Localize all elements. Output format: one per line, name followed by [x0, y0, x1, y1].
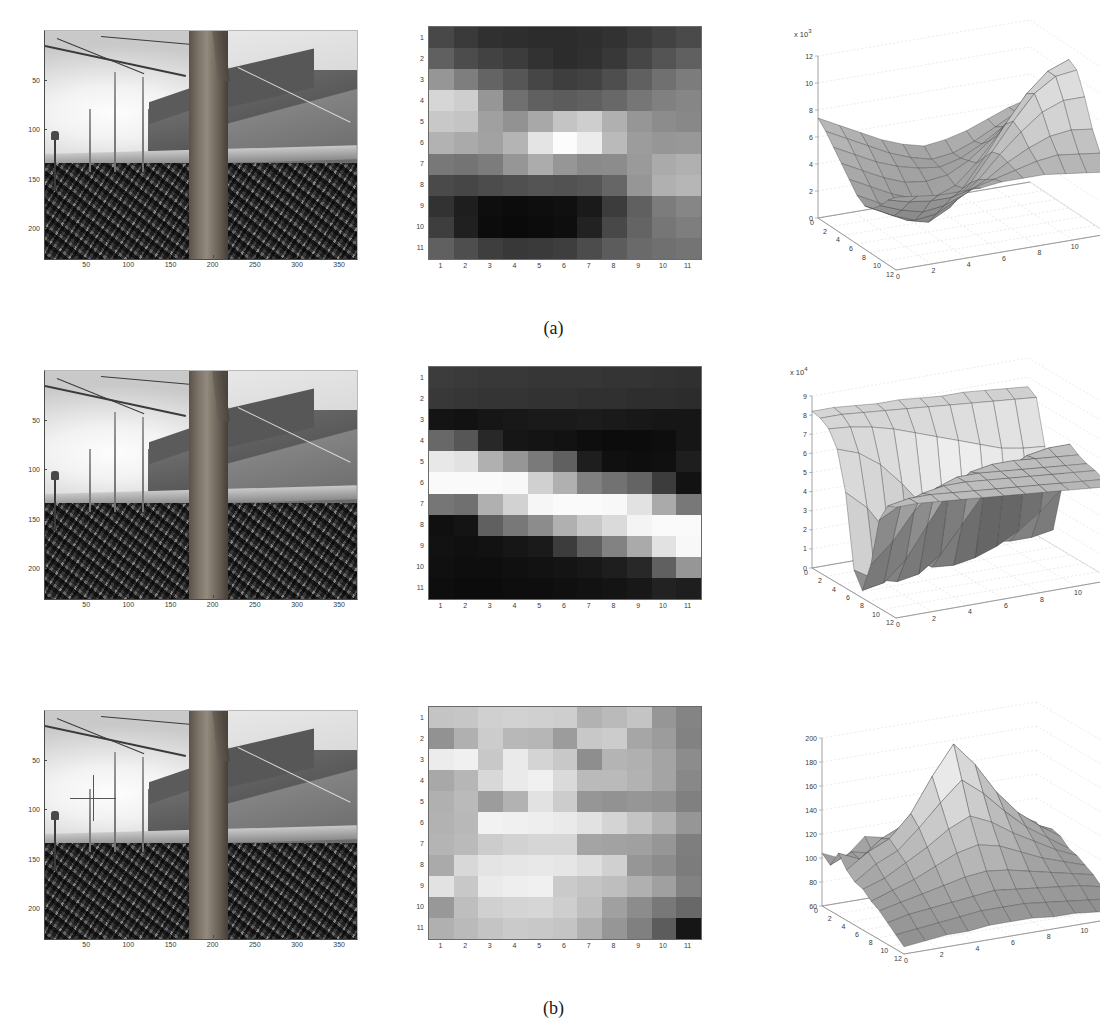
heatmap-x-tick: 10	[659, 942, 667, 949]
heatmap-cell	[454, 494, 479, 515]
heatmap-cell	[478, 430, 503, 451]
heatmap-axes-b	[428, 366, 702, 600]
photo-x-tickmark	[213, 255, 214, 258]
heatmap-cell	[503, 897, 528, 918]
heatmap-cell	[478, 367, 503, 388]
heatmap-cell	[528, 876, 553, 897]
heatmap-cell	[429, 876, 454, 897]
photo-x-tick: 50	[82, 261, 90, 268]
heatmap-cell	[478, 876, 503, 897]
photo-x-tick: 150	[165, 941, 177, 948]
surface-z-tick: 200	[805, 735, 817, 742]
heatmap-cell	[454, 515, 479, 536]
heatmap-x-tick: 3	[488, 262, 492, 269]
heatmap-cell	[553, 472, 578, 493]
heatmap-cell	[553, 791, 578, 812]
photo-y-tickmark	[44, 80, 47, 81]
heatmap-cell	[602, 48, 627, 69]
heatmap-cell	[454, 897, 479, 918]
surface-y-tick: 6	[849, 245, 853, 252]
heatmap-y-tick: 7	[404, 160, 424, 167]
surface-z-tick: 80	[809, 879, 817, 886]
surface-y-tick: 6	[846, 594, 850, 601]
surface-z-tick: 2	[809, 188, 813, 195]
heatmap-cell	[676, 472, 701, 493]
exponent-value: 3	[808, 28, 811, 34]
photo-y-tickmark	[44, 519, 47, 520]
figure-row-c: 50100150200250300350 50100150200 1234567…	[0, 698, 1107, 998]
heatmap-cell	[602, 728, 627, 749]
heatmap-cell	[676, 876, 701, 897]
heatmap-grid-a	[429, 27, 701, 259]
photo-x-tick: 50	[82, 941, 90, 948]
heatmap-cell	[577, 876, 602, 897]
caption-b: (b)	[0, 998, 1107, 1019]
heatmap-cell	[528, 494, 553, 515]
surface-z-tick: 12	[805, 53, 813, 60]
heatmap-cell	[528, 175, 553, 196]
heatmap-cell	[528, 515, 553, 536]
photo-y-tickmark	[44, 760, 47, 761]
heatmap-cell	[676, 388, 701, 409]
thin-tree-3	[89, 789, 91, 853]
heatmap-cell	[454, 472, 479, 493]
heatmap-x-tick: 11	[684, 602, 691, 609]
heatmap-cell	[553, 111, 578, 132]
heatmap-cell	[528, 69, 553, 90]
heatmap-cell	[627, 132, 652, 153]
heatmap-cell	[503, 27, 528, 48]
heatmap-cell	[602, 707, 627, 728]
heatmap-cell	[602, 132, 627, 153]
heatmap-cell	[528, 918, 553, 939]
photo-x-tickmark	[170, 255, 171, 258]
heatmap-cell	[627, 196, 652, 217]
heatmap-cell	[454, 918, 479, 939]
heatmap-cell	[577, 451, 602, 472]
heatmap-cell	[429, 770, 454, 791]
heatmap-cell	[627, 111, 652, 132]
heatmap-cell	[553, 855, 578, 876]
heatmap-cell	[676, 430, 701, 451]
heatmap-cell	[577, 812, 602, 833]
surface-y-tick: 2	[823, 228, 827, 235]
heatmap-cell	[553, 27, 578, 48]
heatmap-cell	[627, 69, 652, 90]
heatmap-cell	[577, 175, 602, 196]
photo-x-tickmark	[297, 595, 298, 598]
heatmap-cell	[627, 175, 652, 196]
surface-y-tick: 8	[869, 939, 873, 946]
heatmap-cell	[577, 154, 602, 175]
photo-y-tick: 100	[22, 806, 40, 813]
heatmap-cell	[528, 409, 553, 430]
heatmap-cell	[627, 707, 652, 728]
heatmap-cell	[577, 494, 602, 515]
photo-x-tickmark	[213, 595, 214, 598]
photo-image-c	[45, 711, 357, 939]
heatmap-cell	[577, 557, 602, 578]
photo-axes-c	[44, 710, 358, 940]
heatmap-x-tick: 4	[513, 262, 517, 269]
heatmap-cell	[627, 557, 652, 578]
heatmap-cell	[652, 430, 677, 451]
heatmap-cell	[503, 90, 528, 111]
photo-x-tick: 50	[82, 601, 90, 608]
photo-x-tickmark	[128, 255, 129, 258]
heatmap-cell	[577, 472, 602, 493]
heatmap-cell	[602, 897, 627, 918]
heatmap-cell	[652, 154, 677, 175]
heatmap-y-tick: 4	[404, 776, 424, 783]
surface-x-tick: 0	[896, 621, 900, 628]
heatmap-cell	[627, 855, 652, 876]
photo-x-tick: 200	[207, 261, 219, 268]
heatmap-cell	[553, 367, 578, 388]
heatmap-cell	[652, 557, 677, 578]
photo-x-tickmark	[297, 935, 298, 938]
heatmap-x-tick: 2	[463, 602, 467, 609]
heatmap-cell	[577, 515, 602, 536]
heatmap-cell	[429, 536, 454, 557]
surface-x-tick: 10	[1074, 589, 1082, 596]
heatmap-x-tick: 6	[562, 942, 566, 949]
heatmap-cell	[503, 217, 528, 238]
heatmap-cell	[627, 494, 652, 515]
heatmap-cell	[652, 770, 677, 791]
